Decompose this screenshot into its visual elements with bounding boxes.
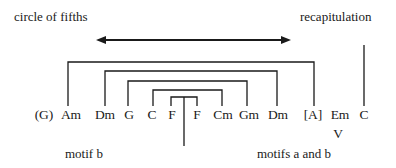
- chord-em: Em: [331, 108, 350, 122]
- bracket-c-f: [153, 90, 222, 106]
- bracket-lines: [0, 0, 396, 168]
- chord-gm: Gm: [239, 108, 259, 122]
- arrow-left-head-icon: [96, 36, 106, 44]
- chord-g-paren: (G): [35, 108, 54, 122]
- chord-c: C: [147, 108, 156, 122]
- motif-b-label: motif b: [65, 147, 103, 161]
- arrow-right-head-icon: [281, 36, 291, 44]
- chord-c-2: C: [359, 108, 368, 122]
- chord-dm-2: Dm: [268, 108, 288, 122]
- chord-g: G: [124, 108, 134, 122]
- roman-numeral-v: V: [333, 127, 343, 141]
- chord-am: Am: [61, 108, 81, 122]
- chord-f-2: F: [193, 108, 201, 122]
- motifs-a-and-b-label: motifs a and b: [257, 147, 331, 161]
- chord-dm: Dm: [95, 108, 115, 122]
- chord-cm: Cm: [213, 108, 233, 122]
- bracket-g-cm: [128, 81, 247, 106]
- chord-a-bracketed: [A]: [304, 108, 323, 122]
- bracket-dm-gm: [105, 71, 277, 106]
- chord-f-1: F: [168, 108, 176, 122]
